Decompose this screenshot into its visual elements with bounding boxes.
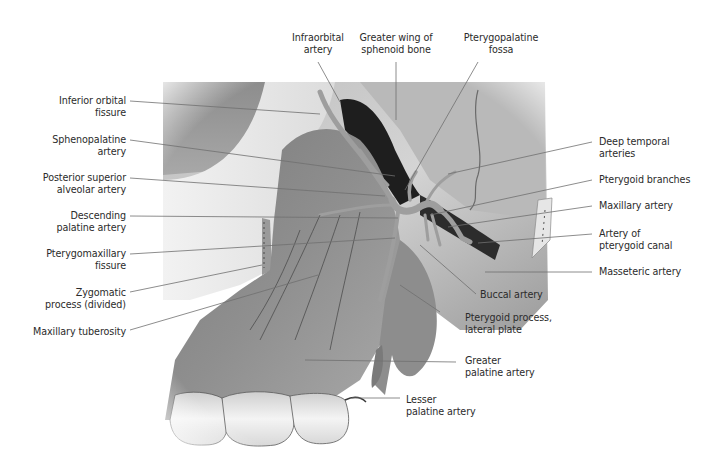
label-line: Posterior superior <box>43 172 126 184</box>
label-line: alveolar artery <box>43 184 126 196</box>
anatomical-figure: Inferior orbital fissure Sphenopalatine … <box>0 0 718 460</box>
label-posterior-superior-alveolar-artery: Posterior superior alveolar artery <box>43 172 126 196</box>
label-line: Descending <box>56 210 126 222</box>
label-line: Lesser <box>406 394 476 406</box>
label-zygomatic-process: Zygomatic process (divided) <box>45 287 126 311</box>
label-pterygoid-process-lateral-plate: Pterygoid process, lateral plate <box>465 312 552 336</box>
label-line: palatine artery <box>465 367 535 379</box>
label-line: Maxillary tuberosity <box>33 326 126 338</box>
label-line: Sphenopalatine <box>52 134 126 146</box>
label-line: Infraorbital <box>278 32 358 44</box>
label-pterygomaxillary-fissure: Pterygomaxillary fissure <box>46 248 126 272</box>
label-line: artery <box>278 44 358 56</box>
label-line: fissure <box>59 107 126 119</box>
label-line: palatine artery <box>406 406 476 418</box>
label-line: Greater wing of <box>351 32 441 44</box>
label-line: sphenoid bone <box>351 44 441 56</box>
label-pterygoid-branches: Pterygoid branches <box>599 174 690 186</box>
label-pterygopalatine-fossa: Pterygopalatine fossa <box>456 32 546 56</box>
label-descending-palatine-artery: Descending palatine artery <box>56 210 126 234</box>
label-line: Maxillary artery <box>599 200 673 212</box>
label-line: process (divided) <box>45 299 126 311</box>
label-line: Greater <box>465 355 535 367</box>
label-line: Masseteric artery <box>599 266 681 278</box>
label-artery-pterygoid-canal: Artery of pterygoid canal <box>599 228 672 252</box>
label-line: Artery of <box>599 228 672 240</box>
label-deep-temporal-arteries: Deep temporal arteries <box>599 136 670 160</box>
label-inferior-orbital-fissure: Inferior orbital fissure <box>59 95 126 119</box>
label-maxillary-artery: Maxillary artery <box>599 200 673 212</box>
label-line: Pterygopalatine <box>456 32 546 44</box>
label-line: Pterygomaxillary <box>46 248 126 260</box>
label-line: Pterygoid process, <box>465 312 552 324</box>
label-line: Buccal artery <box>480 289 543 301</box>
label-infraorbital-artery: Infraorbital artery <box>278 32 358 56</box>
label-line: palatine artery <box>56 222 126 234</box>
label-maxillary-tuberosity: Maxillary tuberosity <box>33 326 126 338</box>
label-line: arteries <box>599 148 670 160</box>
label-lesser-palatine-artery: Lesser palatine artery <box>406 394 476 418</box>
label-line: lateral plate <box>465 324 552 336</box>
label-line: artery <box>52 146 126 158</box>
label-line: Deep temporal <box>599 136 670 148</box>
label-sphenopalatine-artery: Sphenopalatine artery <box>52 134 126 158</box>
label-line: pterygoid canal <box>599 240 672 252</box>
label-line: Inferior orbital <box>59 95 126 107</box>
label-buccal-artery: Buccal artery <box>480 289 543 301</box>
label-line: Zygomatic <box>45 287 126 299</box>
label-masseteric-artery: Masseteric artery <box>599 266 681 278</box>
label-greater-wing-sphenoid: Greater wing of sphenoid bone <box>351 32 441 56</box>
label-line: Pterygoid branches <box>599 174 690 186</box>
label-line: fissure <box>46 260 126 272</box>
label-line: fossa <box>456 44 546 56</box>
label-greater-palatine-artery: Greater palatine artery <box>465 355 535 379</box>
